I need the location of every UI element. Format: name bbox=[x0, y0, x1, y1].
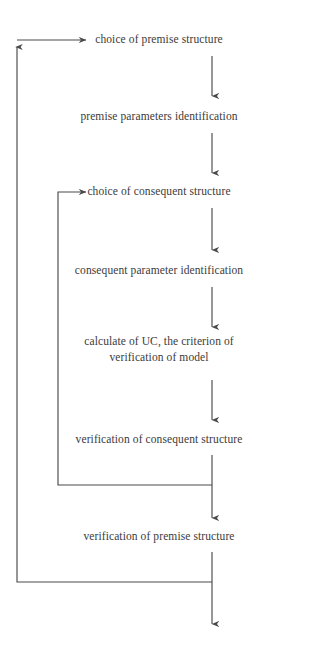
flowchart-diagram: choice of premise structure premise para… bbox=[0, 0, 318, 646]
flowchart-connectors bbox=[0, 0, 318, 646]
node-calculate-uc-line1: calculate of UC, the criterion of bbox=[14, 333, 304, 349]
node-calculate-uc-line2: verification of model bbox=[14, 349, 304, 365]
node-choice-of-premise-structure: choice of premise structure bbox=[0, 32, 318, 47]
node-choice-of-consequent-structure: choice of consequent structure bbox=[0, 184, 318, 199]
node-verification-of-consequent-structure: verification of consequent structure bbox=[0, 432, 318, 447]
node-premise-parameters-identification: premise parameters identification bbox=[0, 109, 318, 124]
node-calculate-uc-criterion: calculate of UC, the criterion of verifi… bbox=[14, 333, 304, 365]
edge-feedback-outer bbox=[17, 47, 212, 582]
node-consequent-parameter-identification: consequent parameter identification bbox=[0, 263, 318, 278]
node-verification-of-premise-structure: verification of premise structure bbox=[0, 529, 318, 544]
